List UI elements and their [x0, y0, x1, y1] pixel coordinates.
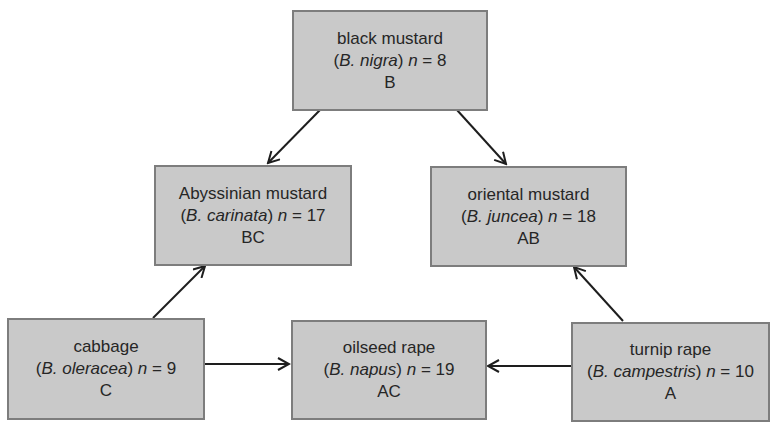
scientific-line: (B. campestris) n = 10 [587, 361, 754, 383]
node-oriental-mustard: oriental mustard (B. juncea) n = 18 AB [430, 166, 627, 267]
node-black-mustard: black mustard (B. nigra) n = 8 B [292, 10, 488, 111]
scientific-line: (B. nigra) n = 8 [333, 50, 446, 72]
arrow-c-to-bc [153, 266, 205, 318]
genome-label: C [100, 380, 112, 402]
genome-label: B [384, 72, 395, 94]
common-name: Abyssinian mustard [179, 183, 327, 205]
arrow-a-to-ab [574, 267, 623, 321]
scientific-line: (B. oleracea) n = 9 [36, 358, 176, 380]
node-turnip-rape: turnip rape (B. campestris) n = 10 A [571, 322, 770, 422]
genome-label: BC [241, 227, 265, 249]
common-name: turnip rape [630, 339, 711, 361]
common-name: oilseed rape [343, 337, 436, 359]
arrow-b-to-ab [457, 110, 506, 164]
genome-label: AB [517, 228, 540, 250]
scientific-line: (B. carinata) n = 17 [180, 205, 325, 227]
scientific-line: (B. juncea) n = 18 [461, 206, 596, 228]
common-name: oriental mustard [468, 184, 590, 206]
node-abyssinian-mustard: Abyssinian mustard (B. carinata) n = 17 … [154, 165, 352, 266]
common-name: cabbage [73, 336, 138, 358]
arrow-b-to-bc [268, 110, 320, 163]
scientific-line: (B. napus) n = 19 [324, 359, 455, 381]
node-oilseed-rape: oilseed rape (B. napus) n = 19 AC [291, 320, 487, 420]
genome-label: AC [377, 381, 401, 403]
genome-label: A [665, 383, 676, 405]
common-name: black mustard [337, 28, 443, 50]
node-cabbage: cabbage (B. oleracea) n = 9 C [7, 318, 205, 420]
brassica-triangle-diagram: black mustard (B. nigra) n = 8 B Abyssin… [0, 0, 781, 433]
